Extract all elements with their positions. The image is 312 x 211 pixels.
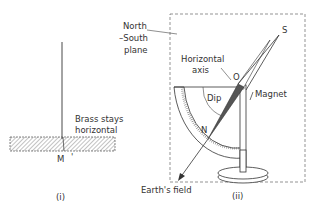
axis-label-line1: Horizontal [181,54,224,64]
south-end-line [238,35,279,84]
magnet-needle-light [238,40,270,87]
panel-i: Brass stays horizontal M ' (i) [10,42,124,202]
stand-pole-lower [240,150,246,172]
south-end-line-2 [246,35,279,90]
protractor-scale [174,87,236,145]
magnet-label-leader [250,92,253,100]
earths-field-arrowhead [178,173,185,181]
brass-bar [10,137,115,151]
bar-label-line2: horizontal [75,125,117,135]
plane-label-line2: –South [119,33,148,43]
magnet-label: Magnet [255,89,288,99]
axis-label-line2: axis [192,65,210,75]
north-pole-label: N [201,125,207,135]
axis-label-leader [221,68,231,80]
panel-ii-caption: (ii) [232,191,243,201]
panel-ii: North –South plane Dip S Magnet Horizont… [119,14,305,201]
point-m-mark: ' [71,152,73,162]
bar-label-line1: Brass stays [75,114,124,124]
plane-label-line3: plane [124,45,148,55]
dip-circle-diagram: Brass stays horizontal M ' (i) North –So… [0,0,312,211]
earths-field-arrow-line [180,139,208,178]
plane-label-leader [147,30,177,34]
pivot-o-label: O [233,72,240,82]
point-m-label: M [57,154,64,164]
panel-i-caption: (i) [56,192,65,202]
south-pole-label: S [282,25,287,35]
earths-field-label: Earth's field [141,185,192,195]
plane-label-line1: North [123,21,147,31]
dip-label: Dip [207,93,221,103]
